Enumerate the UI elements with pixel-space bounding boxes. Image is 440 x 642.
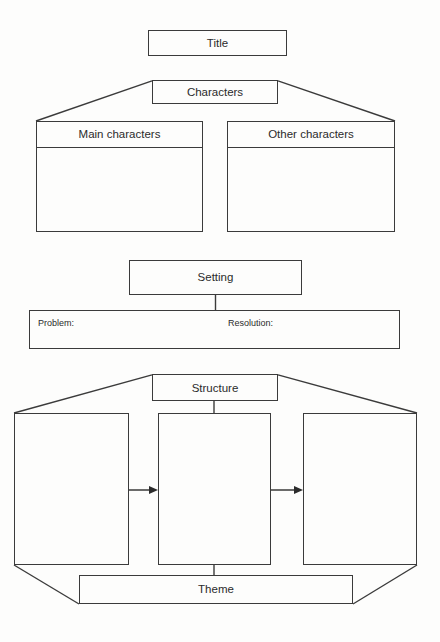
theme-left-diagonal <box>14 565 79 604</box>
setting-box[interactable]: Setting <box>129 260 302 295</box>
setting-label: Setting <box>130 272 301 284</box>
structure-left-diagonal <box>14 375 152 413</box>
arrow-2-head <box>294 486 303 494</box>
title-box[interactable]: Title <box>148 30 287 56</box>
main-characters-divider <box>37 147 202 148</box>
other-characters-divider <box>228 147 394 148</box>
characters-right-diagonal <box>278 81 395 121</box>
story-map-diagram: Title Characters Main characters Other c… <box>0 0 440 642</box>
theme-box[interactable]: Theme <box>79 575 353 604</box>
theme-right-diagonal <box>353 565 417 604</box>
other-characters-box[interactable]: Other characters <box>227 121 395 232</box>
main-characters-box[interactable]: Main characters <box>36 121 203 232</box>
structure-header-box[interactable]: Structure <box>152 374 278 401</box>
other-characters-label: Other characters <box>228 129 394 141</box>
structure-stage-3-box[interactable] <box>303 413 417 565</box>
structure-stage-2-box[interactable] <box>158 413 271 565</box>
main-characters-label: Main characters <box>37 129 202 141</box>
characters-header-box[interactable]: Characters <box>152 80 278 104</box>
characters-header-label: Characters <box>153 87 277 99</box>
structure-right-diagonal <box>278 375 417 413</box>
arrow-1-head <box>149 486 158 494</box>
problem-resolution-bar[interactable]: Problem: Resolution: <box>29 310 400 349</box>
resolution-field-label: Resolution: <box>228 319 273 328</box>
theme-label: Theme <box>80 584 352 596</box>
title-box-label: Title <box>149 38 286 50</box>
problem-field-label: Problem: <box>38 319 74 328</box>
structure-header-label: Structure <box>153 383 277 395</box>
structure-stage-1-box[interactable] <box>14 413 129 565</box>
characters-left-diagonal <box>36 81 152 121</box>
